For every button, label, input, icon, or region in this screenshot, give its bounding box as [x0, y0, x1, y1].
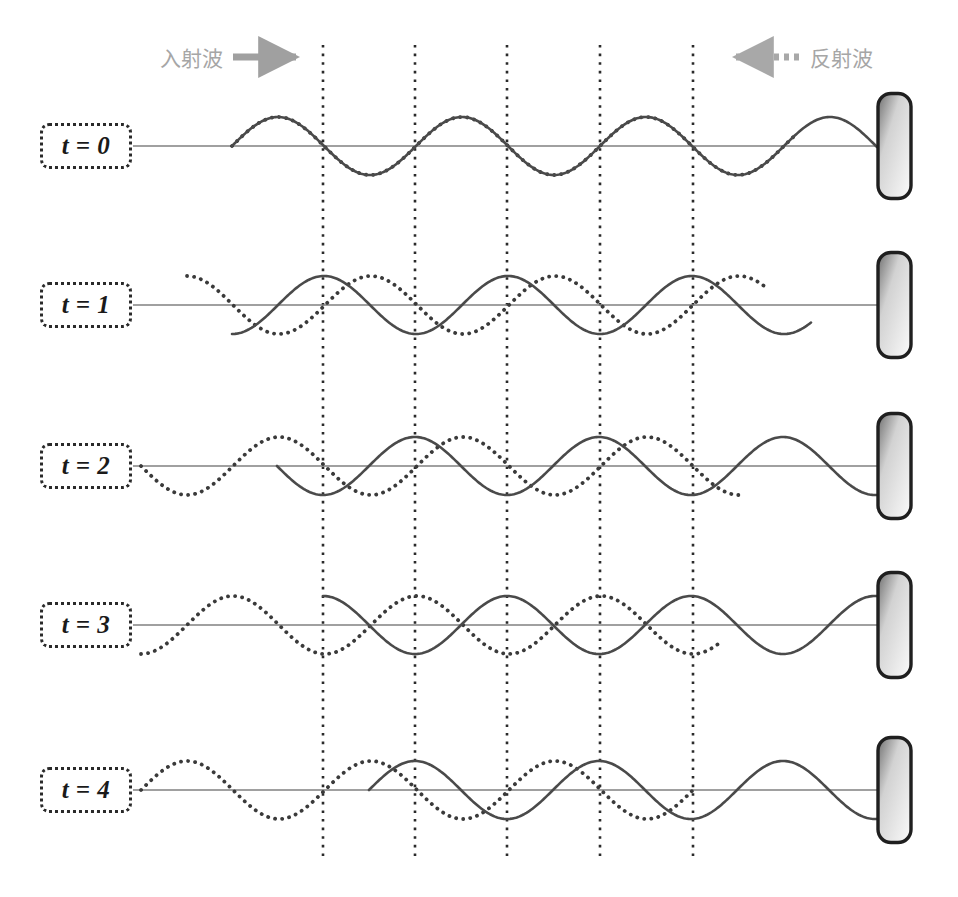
- time-label-chip-t3: t = 3: [40, 602, 132, 648]
- time-label-t0: t = 0: [40, 123, 140, 175]
- wave-row-t4: [133, 738, 911, 843]
- reflecting-wall-t3: [878, 573, 911, 678]
- standing-wave-diagram: 入射波 反射波 t = 0t = 1t = 2t = 3t = 4: [0, 0, 958, 897]
- diagram-stage: 入射波 反射波 t = 0t = 1t = 2t = 3t = 4: [0, 0, 958, 897]
- time-label-chip-t1: t = 1: [40, 282, 132, 328]
- wave-rows: [133, 94, 911, 843]
- time-label-t1: t = 1: [40, 282, 140, 334]
- legend-incident: 入射波: [160, 47, 296, 71]
- legend-reflected-label: 反射波: [810, 47, 873, 71]
- time-label-chip-t4: t = 4: [40, 767, 132, 813]
- reflecting-wall-t4: [878, 738, 911, 843]
- reflecting-wall-t2: [878, 414, 911, 519]
- time-label-t4: t = 4: [40, 767, 140, 819]
- wave-row-t1: [133, 253, 911, 358]
- node-gridlines: [323, 45, 693, 862]
- wave-row-t0: [133, 94, 911, 199]
- legend-reflected: 反射波: [736, 47, 873, 71]
- wave-row-t2: [133, 414, 911, 519]
- time-label-chip-t0: t = 0: [40, 123, 132, 169]
- legend-incident-label: 入射波: [160, 47, 223, 71]
- time-label-t3: t = 3: [40, 602, 140, 654]
- reflecting-wall-t0: [878, 94, 911, 199]
- wave-row-t3: [133, 573, 911, 678]
- reflecting-wall-t1: [878, 253, 911, 358]
- time-labels: t = 0t = 1t = 2t = 3t = 4: [40, 123, 140, 819]
- time-label-t2: t = 2: [40, 443, 140, 495]
- time-label-chip-t2: t = 2: [40, 443, 132, 489]
